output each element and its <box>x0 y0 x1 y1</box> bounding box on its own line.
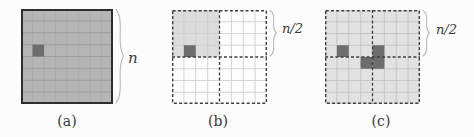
dimension-label-n-half-b: n/2 <box>282 22 303 35</box>
tromino-tiling-figure: n (a) n/2 (b) n/2 (c) <box>0 0 474 137</box>
caption-a: (a) <box>57 114 76 128</box>
brace-c-icon <box>422 10 430 57</box>
caption-b: (b) <box>208 114 228 128</box>
brace-b-icon <box>269 10 277 57</box>
dimension-label-n: n <box>128 51 138 66</box>
caption-c: (c) <box>372 114 391 128</box>
brace-a-icon <box>115 9 124 104</box>
dimension-label-n-half-c: n/2 <box>436 23 457 36</box>
grid-c <box>325 10 420 104</box>
grid-b <box>172 10 267 104</box>
grid-a <box>21 9 113 104</box>
